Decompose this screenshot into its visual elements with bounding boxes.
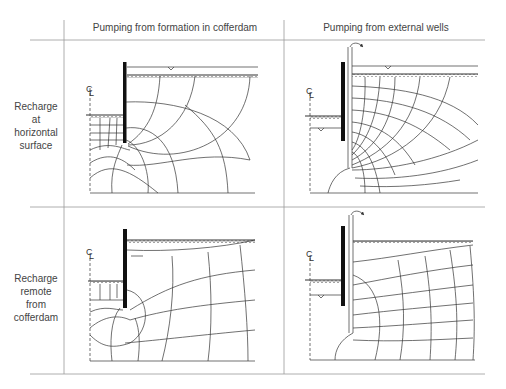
discharge-arrow <box>350 43 362 47</box>
sheet-pile <box>123 229 127 308</box>
sheet-pile <box>123 62 127 143</box>
svg-text:L: L <box>309 253 314 263</box>
panel-bottom-right <box>305 211 475 360</box>
svg-text:L: L <box>309 90 314 100</box>
svg-text:L: L <box>89 251 94 261</box>
panel-top-right <box>305 43 478 193</box>
table-grid <box>30 20 485 374</box>
panel-bottom-left <box>88 229 255 361</box>
discharge-arrow <box>351 211 363 215</box>
sheet-pile <box>341 226 345 306</box>
centerline-symbols: CL CL CL CL <box>86 84 314 263</box>
panel-top-left <box>86 62 258 193</box>
svg-text:L: L <box>89 88 94 98</box>
sheet-pile <box>341 62 345 141</box>
diagram-canvas: CL CL CL CL <box>0 0 506 389</box>
